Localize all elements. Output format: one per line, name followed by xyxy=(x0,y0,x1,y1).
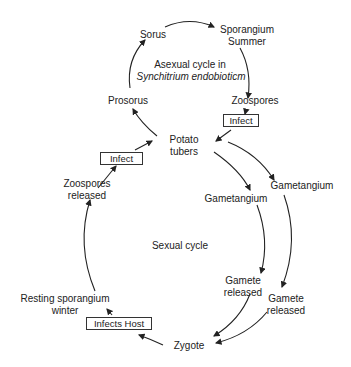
sexual-cycle-title: Sexual cycle xyxy=(152,240,208,252)
node-gamete-released-right: Gamete xyxy=(268,293,304,305)
node-zoospores-released-2: released xyxy=(68,190,106,202)
node-potato-tubers-2: tubers xyxy=(170,146,198,158)
node-gamete-released-left: Gamete xyxy=(225,275,261,287)
infects-host-box: Infects Host xyxy=(86,317,152,330)
node-zygote: Zygote xyxy=(174,340,205,352)
infect-box-left: Infect xyxy=(100,152,143,165)
asexual-cycle-title: Asexual cycle in xyxy=(154,59,226,71)
node-zoospores-released: Zoospores xyxy=(63,178,110,190)
node-potato-tubers: Potato xyxy=(170,134,199,146)
node-resting-sporangium-winter: winter xyxy=(52,305,79,317)
node-gametangium-right: Gametangium xyxy=(271,180,334,192)
node-gametangium-left: Gametangium xyxy=(205,193,268,205)
infect-box-right: Infect xyxy=(223,114,259,127)
node-prosorus: Prosorus xyxy=(108,95,148,107)
node-gamete-released-right-2: released xyxy=(267,305,305,317)
asexual-cycle-species: Synchitrium endobioticm xyxy=(137,71,246,83)
node-sorus: Sorus xyxy=(140,29,166,41)
node-resting-sporangium: Resting sporangium xyxy=(21,293,110,305)
node-sporangium: Sporangium xyxy=(220,24,274,36)
node-sporangium-summer: Summer xyxy=(228,36,266,48)
node-gamete-released-left-2: released xyxy=(224,287,262,299)
node-zoospores: Zoospores xyxy=(231,95,278,107)
